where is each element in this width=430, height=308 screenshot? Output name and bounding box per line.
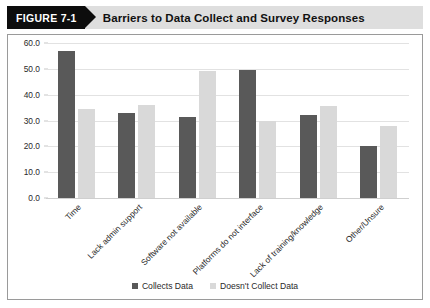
x-axis-tick-label: Other/Unsure xyxy=(343,202,386,245)
y-axis-tick-label: 40.0 xyxy=(24,90,40,100)
x-axis-tick-label: Time xyxy=(63,202,83,222)
bar-group xyxy=(349,43,410,198)
bar xyxy=(138,105,155,198)
chart-frame: 60.050.040.030.020.010.00.0 TimeLack adm… xyxy=(7,34,423,300)
y-axis-tick-label: 30.0 xyxy=(24,116,40,126)
bar xyxy=(239,70,256,198)
y-axis-tick-label: 0.0 xyxy=(28,193,40,203)
x-axis-tick-label: Lack admin support xyxy=(85,202,144,261)
bar-group xyxy=(46,43,107,198)
legend-label: Doesn't Collect Data xyxy=(220,281,298,291)
y-axis-tick-label: 60.0 xyxy=(24,38,40,48)
legend-label: Collects Data xyxy=(142,281,193,291)
figure-title: Barriers to Data Collect and Survey Resp… xyxy=(96,6,365,29)
bar xyxy=(360,146,377,198)
plot-wrap xyxy=(46,43,409,198)
legend-swatch xyxy=(132,283,138,289)
bar-group xyxy=(228,43,289,198)
chart-legend: Collects DataDoesn't Collect Data xyxy=(8,281,422,291)
bar xyxy=(199,71,216,198)
banner-arrow-icon xyxy=(85,6,96,28)
x-axis-tick-label: Software not available xyxy=(139,202,204,267)
bar xyxy=(320,106,337,198)
legend-item[interactable]: Doesn't Collect Data xyxy=(210,281,298,291)
bar-group xyxy=(288,43,349,198)
bar xyxy=(380,126,397,198)
y-axis-tick-label: 20.0 xyxy=(24,141,40,151)
figure-banner: FIGURE 7-1 Barriers to Data Collect and … xyxy=(7,6,423,29)
bar xyxy=(58,51,75,198)
bar xyxy=(118,113,135,198)
bar-group xyxy=(107,43,168,198)
legend-item[interactable]: Collects Data xyxy=(132,281,193,291)
y-axis-tick-label: 50.0 xyxy=(24,64,40,74)
bar xyxy=(179,117,196,198)
figure-container: FIGURE 7-1 Barriers to Data Collect and … xyxy=(0,0,430,308)
y-axis-tick-label: 10.0 xyxy=(24,167,40,177)
figure-number-tag: FIGURE 7-1 xyxy=(7,6,85,29)
legend-swatch xyxy=(210,283,216,289)
bar-group xyxy=(167,43,228,198)
bar xyxy=(300,115,317,198)
x-axis-labels: TimeLack admin supportSoftware not avail… xyxy=(46,198,409,290)
plot-area xyxy=(46,43,409,198)
bar xyxy=(78,109,95,198)
y-axis: 60.050.040.030.020.010.00.0 xyxy=(8,43,44,198)
bar xyxy=(259,121,276,199)
